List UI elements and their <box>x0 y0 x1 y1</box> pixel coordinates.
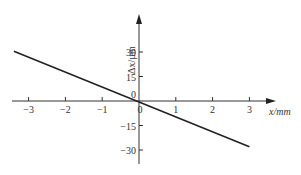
x-ticks: −3−2−10123 <box>23 97 252 115</box>
x-tick-label: 3 <box>247 104 252 115</box>
chart-svg: −3−2−10123 30150−15−30 x/mm Δx/µm <box>0 0 301 175</box>
y-tick-label: −15 <box>120 121 136 132</box>
x-axis-label: x/mm <box>268 106 291 117</box>
x-tick-label: 1 <box>173 104 178 115</box>
chart-container: −3−2−10123 30150−15−30 x/mm Δx/µm <box>0 0 301 175</box>
x-tick-label: −3 <box>23 104 34 115</box>
x-axis-arrow-icon <box>266 98 276 104</box>
x-tick-label: 0 <box>138 104 143 115</box>
y-tick-label: −30 <box>120 145 136 156</box>
y-axis-label: Δx/µm <box>126 46 137 74</box>
x-tick-label: −1 <box>97 104 108 115</box>
y-axis-arrow-icon <box>136 14 142 24</box>
x-tick-label: −2 <box>60 104 71 115</box>
x-tick-label: 2 <box>210 104 215 115</box>
